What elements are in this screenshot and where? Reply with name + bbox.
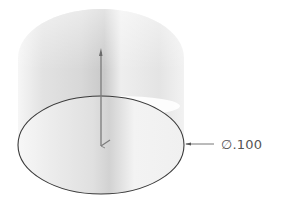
leader-arrowhead-icon [185, 142, 191, 145]
diameter-dimension[interactable]: ∅.100 [185, 137, 262, 152]
diameter-label: ∅.100 [221, 137, 262, 152]
cad-viewport: ∅.100 [0, 0, 283, 204]
